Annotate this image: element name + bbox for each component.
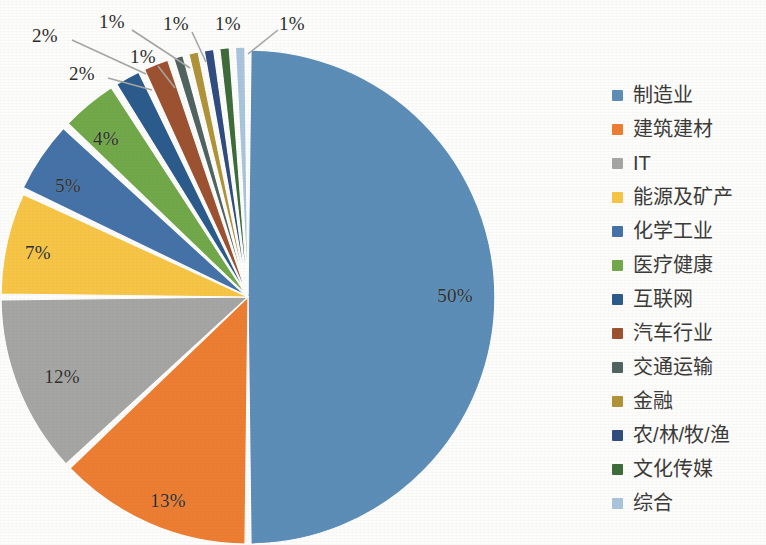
legend-item[interactable]: 综合: [612, 486, 766, 520]
legend-item[interactable]: 文化传媒: [612, 452, 766, 486]
legend-item-label: 文化传媒: [633, 459, 713, 479]
slice-value-label: 1%: [130, 46, 156, 68]
legend-item-label: 农/林/牧/渔: [633, 425, 730, 445]
legend-swatch-icon: [612, 362, 623, 373]
slice-value-label: 2%: [69, 63, 95, 85]
legend-swatch-icon: [612, 396, 623, 407]
pie-chart-figure: 50%13%12%7%5%4%2%2%1%1%1%1%1% 制造业建筑建材IT能…: [0, 0, 766, 545]
legend-item-label: 互联网: [633, 289, 693, 309]
legend-swatch-icon: [612, 226, 623, 237]
legend-item-label: 医疗健康: [633, 255, 713, 275]
slice-value-label: 4%: [93, 128, 119, 150]
legend-item[interactable]: 能源及矿产: [612, 180, 766, 214]
legend-item[interactable]: IT: [612, 146, 766, 180]
legend-item-label: 交通运输: [633, 357, 713, 377]
chart-legend: 制造业建筑建材IT能源及矿产化学工业医疗健康互联网汽车行业交通运输金融农/林/牧…: [612, 78, 766, 520]
slice-value-label: 2%: [32, 25, 58, 47]
slice-value-label: 1%: [163, 13, 189, 35]
legend-item[interactable]: 金融: [612, 384, 766, 418]
slice-value-label: 5%: [55, 175, 81, 197]
legend-item[interactable]: 互联网: [612, 282, 766, 316]
legend-item[interactable]: 建筑建材: [612, 112, 766, 146]
legend-item-label: 汽车行业: [633, 323, 713, 343]
legend-swatch-icon: [612, 328, 623, 339]
slice-value-label: 1%: [215, 13, 241, 35]
legend-swatch-icon: [612, 192, 623, 203]
slice-value-label: 12%: [44, 366, 80, 388]
legend-item[interactable]: 制造业: [612, 78, 766, 112]
legend-swatch-icon: [612, 498, 623, 509]
slice-value-label: 13%: [150, 490, 186, 512]
legend-swatch-icon: [612, 294, 623, 305]
legend-swatch-icon: [612, 260, 623, 271]
legend-item[interactable]: 医疗健康: [612, 248, 766, 282]
legend-swatch-icon: [612, 464, 623, 475]
pie-plot-area: 50%13%12%7%5%4%2%2%1%1%1%1%1%: [0, 0, 600, 545]
slice-value-label: 1%: [99, 11, 125, 33]
slice-value-label: 7%: [25, 242, 51, 264]
legend-swatch-icon: [612, 158, 623, 169]
slice-value-label: 50%: [437, 285, 473, 307]
legend-item-label: 化学工业: [633, 221, 713, 241]
legend-item[interactable]: 汽车行业: [612, 316, 766, 350]
legend-swatch-icon: [612, 430, 623, 441]
legend-swatch-icon: [612, 90, 623, 101]
legend-item-label: 综合: [633, 493, 673, 513]
legend-item-label: 金融: [633, 391, 673, 411]
legend-item-label: 建筑建材: [633, 119, 713, 139]
legend-item-label: 能源及矿产: [633, 187, 733, 207]
legend-item-label: 制造业: [633, 85, 693, 105]
legend-swatch-icon: [612, 124, 623, 135]
legend-item[interactable]: 化学工业: [612, 214, 766, 248]
legend-item[interactable]: 农/林/牧/渔: [612, 418, 766, 452]
legend-item[interactable]: 交通运输: [612, 350, 766, 384]
slice-value-label: 1%: [279, 13, 305, 35]
legend-item-label: IT: [633, 153, 651, 173]
